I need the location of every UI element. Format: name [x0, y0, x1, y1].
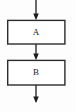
node-a-label: A	[33, 27, 40, 37]
edge-a-to-b-arrow	[33, 44, 39, 60]
node-a[interactable]: A	[8, 20, 65, 44]
edge-entry-arrowhead-icon	[33, 14, 39, 20]
node-b[interactable]: B	[8, 60, 65, 85]
edge-exit-arrowhead-icon	[33, 97, 39, 103]
flowchart-canvas: A B	[0, 0, 76, 112]
edge-exit-arrow	[33, 85, 39, 103]
node-b-label: B	[33, 67, 39, 77]
flowchart-svg: A B	[0, 0, 76, 112]
edge-a-to-b-arrowhead-icon	[33, 54, 39, 60]
edge-entry-arrow	[33, 0, 39, 20]
